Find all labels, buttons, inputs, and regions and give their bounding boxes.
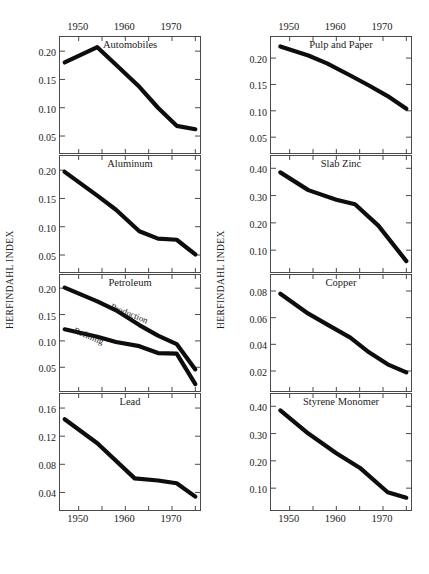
y-tick-label: 0.30 [250,191,268,202]
plot-area [271,394,411,510]
plot-area [60,394,200,510]
plot-area [60,37,200,153]
chart-panel-copper: Copper0.020.040.060.08 [270,274,412,392]
chart-panel-aluminum: Aluminum0.050.100.150.20 [59,155,201,273]
y-tick-label: 0.10 [250,246,268,257]
x-axis-year-label: 1960 [114,513,135,524]
x-axis-year-label: 1950 [67,21,88,32]
x-axis-year-label: 1970 [372,21,393,32]
data-series-line [280,172,406,261]
x-axis-year-label: 1960 [325,21,346,32]
y-tick-label: 0.04 [39,488,57,499]
data-series-line [65,47,196,129]
plot-area [271,275,411,391]
x-axis-year-label: 1950 [278,513,299,524]
y-tick-label: 0.08 [39,460,57,471]
y-tick-label: 0.20 [39,284,57,295]
data-series-line [65,329,196,384]
plot-area [60,156,200,272]
x-axis-year-label: 1970 [161,21,182,32]
chart-panel-lead: Lead0.040.080.120.16 [59,393,201,511]
y-tick-label: 0.10 [39,222,57,233]
x-axis-year-label: 1970 [372,513,393,524]
y-tick-label: 0.12 [39,432,57,443]
y-tick-label: 0.20 [250,456,268,467]
plot-area [271,37,411,153]
y-tick-label: 0.15 [250,80,268,91]
x-axis-years-top-right: 195019601970 [270,21,410,35]
figure-root: HERFINDAHL INDEX 195019601970 1950196019… [0,0,429,574]
plot-area [60,275,200,391]
y-tick-label: 0.10 [39,336,57,347]
data-series-line [280,46,406,108]
y-axis-label-left: HERFINDAHL INDEX [2,170,18,390]
x-axis-year-label: 1950 [278,21,299,32]
x-axis-year-label: 1970 [161,513,182,524]
y-tick-label: 0.16 [39,404,57,415]
data-series-line [280,410,406,497]
data-series-line [65,288,196,370]
y-tick-label: 0.10 [250,106,268,117]
y-tick-label: 0.05 [39,363,57,374]
y-tick-label: 0.15 [39,75,57,86]
y-axis-label-right: HERFINDAHL INDEX [213,170,229,390]
x-axis-year-label: 1950 [67,513,88,524]
y-tick-label: 0.06 [250,313,268,324]
plot-area [271,156,411,272]
x-axis-year-label: 1960 [325,513,346,524]
data-series-line [280,294,406,373]
y-tick-label: 0.20 [39,47,57,58]
chart-panel-automobiles: Automobiles0.050.100.150.20 [59,36,201,154]
data-series-line [65,172,196,255]
chart-panel-styrene-monomer: Styrene Monomer0.100.200.300.40 [270,393,412,511]
y-tick-label: 0.02 [250,367,268,378]
chart-panel-pulp-and-paper: Pulp and Paper0.050.100.150.20 [270,36,412,154]
chart-panel-slab-zinc: Slab Zinc0.100.200.300.40 [270,155,412,273]
y-tick-label: 0.15 [39,194,57,205]
y-tick-label: 0.20 [250,218,268,229]
x-axis-years-top-left: 195019601970 [59,21,199,35]
figure-caption [0,566,429,574]
y-tick-label: 0.30 [250,429,268,440]
x-axis-year-label: 1960 [114,21,135,32]
y-tick-label: 0.05 [39,132,57,143]
x-axis-years-bottom-left: 195019601970 [59,513,199,527]
y-tick-label: 0.10 [250,484,268,495]
y-tick-label: 0.10 [39,103,57,114]
y-tick-label: 0.08 [250,287,268,298]
data-series-line [65,419,196,496]
y-tick-label: 0.40 [250,402,268,413]
y-tick-label: 0.15 [39,310,57,321]
chart-panel-petroleum: Petroleum0.050.100.150.20ProductionRefin… [59,274,201,392]
y-tick-label: 0.20 [39,166,57,177]
y-tick-label: 0.04 [250,340,268,351]
x-axis-years-bottom-right: 195019601970 [270,513,410,527]
y-tick-label: 0.05 [250,133,268,144]
y-tick-label: 0.40 [250,164,268,175]
y-tick-label: 0.05 [39,251,57,262]
y-tick-label: 0.20 [250,54,268,65]
